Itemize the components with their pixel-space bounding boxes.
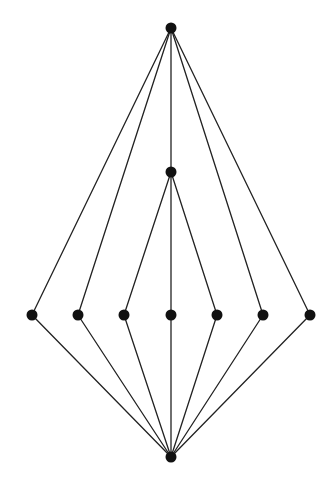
hasse-diagram — [0, 0, 333, 481]
edge-top-a2 — [78, 28, 171, 315]
edge-a6-bottom — [171, 315, 263, 457]
node-top — [166, 23, 177, 34]
edge-mid-a5 — [171, 172, 217, 315]
edge-a5-bottom — [171, 315, 217, 457]
node-mid — [166, 167, 177, 178]
node-a7 — [305, 310, 316, 321]
node-a4 — [166, 310, 177, 321]
edge-a7-bottom — [171, 315, 310, 457]
edges-group — [32, 28, 310, 457]
node-a5 — [212, 310, 223, 321]
edge-top-a6 — [171, 28, 263, 315]
edge-top-a7 — [171, 28, 310, 315]
node-a2 — [73, 310, 84, 321]
edge-a1-bottom — [32, 315, 171, 457]
edge-a3-bottom — [124, 315, 171, 457]
edge-a2-bottom — [78, 315, 171, 457]
edge-mid-a3 — [124, 172, 171, 315]
edge-top-a1 — [32, 28, 171, 315]
node-a6 — [258, 310, 269, 321]
node-a3 — [119, 310, 130, 321]
node-bottom — [166, 452, 177, 463]
node-a1 — [27, 310, 38, 321]
